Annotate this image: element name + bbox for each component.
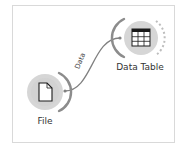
- workflow-canvas-graphics: [0, 0, 186, 156]
- link-source-dot: [63, 89, 66, 92]
- link-sink-dot: [118, 36, 121, 39]
- table-icon: [132, 29, 150, 46]
- file-icon: [39, 83, 52, 101]
- node-file-title[interactable]: File: [37, 116, 52, 126]
- node-data-table-title[interactable]: Data Table: [116, 62, 164, 72]
